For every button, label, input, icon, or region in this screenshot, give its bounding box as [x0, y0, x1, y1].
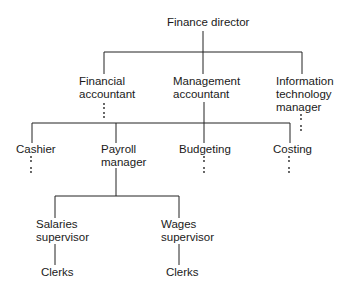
node-wages-supervisor: Wages supervisor	[161, 218, 214, 244]
node-wages-clerks: Clerks	[166, 266, 199, 279]
node-management-accountant: Management accountant	[173, 75, 240, 101]
node-it-manager: Information technology manager	[276, 75, 334, 114]
node-finance-director: Finance director	[167, 16, 249, 29]
budgeting-dots	[203, 156, 205, 173]
node-payroll-manager: Payroll manager	[101, 143, 146, 169]
node-salaries-clerks: Clerks	[41, 266, 74, 279]
org-chart: Finance director Financial accountant Ma…	[0, 0, 342, 291]
node-financial-accountant: Financial accountant	[79, 75, 135, 101]
financial-accountant-dots	[103, 103, 105, 118]
node-costing: Costing	[273, 143, 312, 156]
node-salaries-supervisor: Salaries supervisor	[36, 218, 89, 244]
node-cashier: Cashier	[16, 143, 56, 156]
node-budgeting: Budgeting	[179, 143, 231, 156]
it-manager-dots	[300, 114, 302, 131]
cashier-dots	[30, 156, 32, 173]
costing-dots	[288, 156, 290, 173]
